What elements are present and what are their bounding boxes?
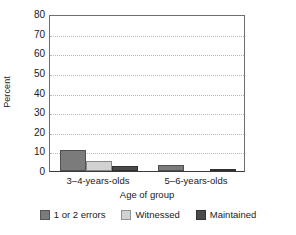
y-axis-tick-label: 60 bbox=[20, 49, 45, 59]
x-axis-tick-label: 3–4-years-olds bbox=[67, 175, 130, 187]
legend-label: 1 or 2 errors bbox=[54, 210, 106, 220]
plot-area bbox=[49, 15, 245, 172]
bar bbox=[112, 166, 138, 171]
y-axis-title: Percent bbox=[2, 62, 12, 122]
legend-label: Witnessed bbox=[135, 210, 179, 220]
bar bbox=[210, 169, 236, 171]
y-axis-tick-label: 40 bbox=[20, 89, 45, 99]
y-axis-tick-label: 30 bbox=[20, 108, 45, 118]
bar bbox=[60, 150, 86, 171]
y-axis-tick-label: 0 bbox=[20, 167, 45, 177]
bar-group bbox=[60, 16, 138, 171]
legend-item: Witnessed bbox=[121, 210, 179, 220]
legend-swatch-icon bbox=[196, 210, 206, 220]
y-axis-tick-label: 70 bbox=[20, 30, 45, 40]
y-axis-tick-label: 80 bbox=[20, 10, 45, 20]
y-axis-tick-label: 50 bbox=[20, 69, 45, 79]
x-axis-title: Age of group bbox=[49, 189, 245, 200]
bars-layer bbox=[50, 16, 244, 171]
y-axis-tick-label: 10 bbox=[20, 147, 45, 157]
legend-item: 1 or 2 errors bbox=[40, 210, 106, 220]
legend-swatch-icon bbox=[121, 210, 131, 220]
legend-label: Maintained bbox=[210, 210, 256, 220]
bar bbox=[86, 161, 112, 171]
bar bbox=[158, 165, 184, 171]
legend-swatch-icon bbox=[40, 210, 50, 220]
legend: 1 or 2 errorsWitnessedMaintained bbox=[0, 210, 296, 220]
legend-item: Maintained bbox=[196, 210, 256, 220]
bar-group bbox=[158, 16, 236, 171]
x-axis-tick-label: 5–6-years-olds bbox=[165, 175, 228, 187]
bar-chart: Percent 01020304050607080 3–4-years-olds… bbox=[0, 0, 296, 235]
y-axis-tick-labels: 01020304050607080 bbox=[20, 15, 45, 172]
y-axis-tick-label: 20 bbox=[20, 128, 45, 138]
x-axis-tick-labels: 3–4-years-olds5–6-years-olds bbox=[49, 175, 245, 189]
